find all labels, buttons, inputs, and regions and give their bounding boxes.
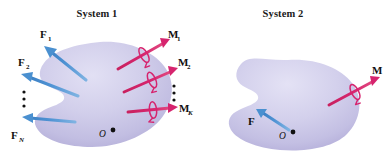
moment-vertical-ellipsis: [172, 84, 175, 101]
system-2-point-dot: [291, 130, 296, 135]
system-2-body-blob: [229, 59, 360, 151]
system-2-force-label: F: [248, 115, 255, 127]
figure-canvas: System 1 System 2 O F 1 F 2: [0, 0, 387, 157]
moment-1-subscript: 1: [177, 35, 181, 43]
system-2-title: System 2: [263, 8, 304, 19]
system-2-moment-label: M: [372, 64, 383, 76]
force-n-label: F: [11, 129, 18, 141]
force-1-label: F: [40, 28, 47, 40]
system-2-point-label: O: [279, 131, 286, 141]
system-2-group: O F M: [229, 59, 383, 151]
force-n-subscript: N: [18, 136, 25, 144]
force-2-subscript: 2: [26, 63, 30, 71]
moment-k-subscript: K: [187, 109, 194, 117]
force-2-label: F: [18, 56, 25, 68]
system-1-point-label: O: [99, 129, 106, 139]
moment-2-subscript: 2: [187, 63, 191, 71]
system-1-point-dot: [111, 128, 116, 133]
force-vertical-ellipsis: [22, 90, 25, 107]
force-moment-equivalence-figure: System 1 System 2 O F 1 F 2: [0, 0, 387, 157]
system-1-title: System 1: [77, 8, 118, 19]
force-1-subscript: 1: [48, 35, 52, 43]
system-1-group: O F 1 F 2: [11, 28, 194, 147]
